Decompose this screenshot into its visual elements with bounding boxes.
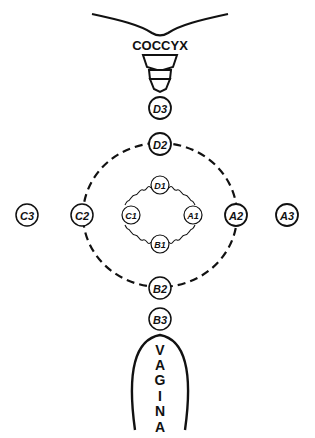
node-A3: A3: [276, 204, 298, 226]
svg-text:N: N: [155, 403, 165, 419]
coccyx-label: COCCYX: [132, 38, 188, 53]
svg-text:C3: C3: [20, 210, 34, 222]
svg-text:A2: A2: [228, 210, 243, 222]
svg-text:B2: B2: [153, 283, 167, 295]
node-B3: B3: [149, 308, 171, 330]
svg-text:C2: C2: [75, 210, 89, 222]
svg-text:I: I: [158, 388, 162, 404]
sacrum-outline: [92, 14, 228, 35]
node-A1: A1: [184, 206, 202, 224]
node-C1: C1: [122, 206, 140, 224]
svg-text:V: V: [155, 342, 165, 358]
svg-text:A3: A3: [279, 210, 294, 222]
svg-text:A1: A1: [186, 211, 199, 221]
coccyx-icon: [143, 55, 177, 92]
svg-text:D3: D3: [153, 103, 167, 115]
svg-text:D1: D1: [154, 181, 166, 191]
node-B1: B1: [151, 235, 169, 253]
node-D2: D2: [149, 133, 171, 155]
outer-dashed-ring: [83, 143, 237, 287]
svg-text:B1: B1: [154, 240, 166, 250]
svg-text:G: G: [155, 372, 166, 388]
node-C3: C3: [16, 204, 38, 226]
node-A2: A2: [225, 204, 247, 226]
svg-text:A: A: [155, 419, 165, 435]
diagram-canvas: COCCYX V A G I N A D3 D2 D1 C1: [0, 0, 315, 438]
node-C2: C2: [71, 204, 93, 226]
svg-text:B3: B3: [153, 314, 167, 326]
svg-text:D2: D2: [153, 139, 167, 151]
node-D1: D1: [151, 176, 169, 194]
svg-text:A: A: [155, 357, 165, 373]
node-B2: B2: [149, 277, 171, 299]
svg-text:C1: C1: [125, 211, 137, 221]
node-D3: D3: [149, 97, 171, 119]
vagina-label: V A G I N A: [155, 342, 166, 435]
